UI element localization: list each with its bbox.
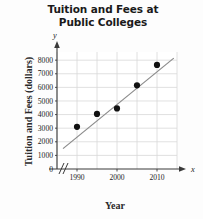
y-axis-arrow [54, 41, 60, 48]
data-point [134, 82, 140, 88]
y-axis-variable-label: y [52, 31, 57, 40]
y-tick-label: 6000 [38, 83, 53, 92]
data-point [94, 111, 100, 117]
y-tick-label: 2000 [38, 137, 53, 146]
x-tick-label: 2000 [109, 173, 124, 182]
x-axis-variable-label: x [190, 165, 195, 174]
y-tick-label: 8000 [38, 56, 53, 65]
y-tick-label: 7000 [38, 69, 53, 78]
x-tick-label: 1990 [69, 173, 84, 182]
y-tick-label: 3000 [38, 124, 53, 133]
scatter-plot: 010002000300040005000600070008000 199020… [0, 0, 203, 219]
y-tick-label: 0 [49, 165, 53, 174]
y-tick-label: 1000 [38, 151, 53, 160]
x-tick-label: 2010 [149, 173, 164, 182]
y-tick-label: 5000 [38, 97, 53, 106]
data-point [154, 62, 160, 68]
data-point [74, 124, 80, 130]
y-tick-label: 4000 [38, 110, 53, 119]
chart-figure: Tuition and Fees at Public Colleges Tuit… [0, 0, 203, 219]
data-point [114, 105, 120, 111]
y-axis-tick-labels: 010002000300040005000600070008000 [38, 56, 53, 174]
x-axis-tick-labels: 199020002010 [69, 173, 164, 182]
x-axis-arrow [179, 166, 186, 172]
